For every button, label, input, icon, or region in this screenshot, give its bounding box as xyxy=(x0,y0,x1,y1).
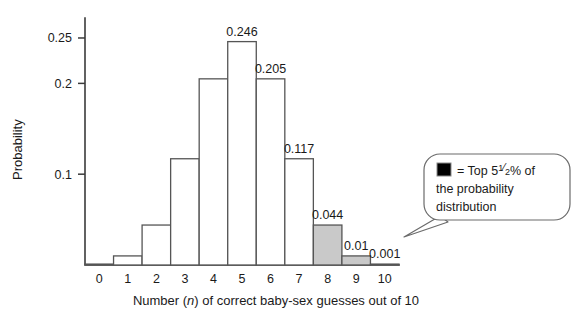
x-tick-label: 10 xyxy=(378,272,392,286)
bar-2 xyxy=(142,225,171,265)
y-axis-title: Probability xyxy=(10,119,25,180)
bar-value-label-9: 0.01 xyxy=(344,239,368,253)
x-tick-label: 8 xyxy=(324,272,331,286)
callout-annotation: = Top 51⁄2% of the probability distribut… xyxy=(404,154,570,237)
x-tick-label: 1 xyxy=(124,272,131,286)
x-tick-label: 4 xyxy=(210,272,217,286)
callout-line-2: the probability xyxy=(436,182,515,196)
x-tick-label: 3 xyxy=(181,272,188,286)
x-axis-title-prefix: Number ( xyxy=(133,293,188,308)
bar-8 xyxy=(313,225,342,265)
x-axis-title: Number (n) of correct baby-sex guesses o… xyxy=(133,293,419,308)
x-tick-label: 5 xyxy=(239,272,246,286)
legend-swatch-icon xyxy=(437,163,451,176)
x-tick-label: 0 xyxy=(96,272,103,286)
x-tick-label: 2 xyxy=(153,272,160,286)
bar-10 xyxy=(370,264,399,265)
callout-swatch-label: = Top 5 xyxy=(457,164,498,178)
x-tick-labels: 012345678910 xyxy=(96,272,392,286)
bar-4 xyxy=(199,79,228,265)
x-tick-label: 7 xyxy=(296,272,303,286)
bar-0 xyxy=(85,264,114,265)
bar-3 xyxy=(171,159,200,265)
bar-value-label-5: 0.246 xyxy=(226,25,257,39)
bar-6 xyxy=(256,79,285,265)
bar-1 xyxy=(114,256,143,265)
bar-value-label-7: 0.117 xyxy=(284,142,314,156)
bar-value-label-6: 0.205 xyxy=(255,62,286,76)
callout-line-1: = Top 51⁄2% of xyxy=(457,161,536,178)
bar-5 xyxy=(228,42,257,265)
bar-9 xyxy=(342,256,371,265)
y-tick-label: 0.25 xyxy=(48,31,72,45)
y-tick-label: 0.2 xyxy=(55,77,72,91)
callout-line-3: distribution xyxy=(436,200,496,214)
probability-histogram-chart: Probability 0.10.20.25 012345678910 0.24… xyxy=(0,0,575,317)
figure-container: Probability 0.10.20.25 012345678910 0.24… xyxy=(0,0,575,317)
bar-series xyxy=(85,42,399,265)
callout-percent: % of xyxy=(510,164,536,178)
bar-value-label-10: 0.001 xyxy=(369,247,400,261)
x-tick-label: 9 xyxy=(353,272,360,286)
y-tick-label: 0.1 xyxy=(55,168,72,182)
x-axis-title-variable: n xyxy=(187,293,194,308)
x-tick-label: 6 xyxy=(267,272,274,286)
bar-7 xyxy=(285,159,314,265)
y-tick-labels: 0.10.20.25 xyxy=(48,31,72,181)
x-axis-title-suffix: ) of correct baby-sex guesses out of 10 xyxy=(194,293,419,308)
bar-value-label-8: 0.044 xyxy=(312,208,343,222)
